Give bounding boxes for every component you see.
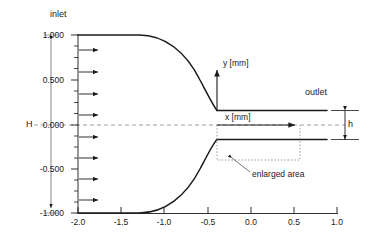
x-tick-label-4: -0.5 xyxy=(188,218,228,227)
y-tick-label-2: 0.500 xyxy=(24,76,64,85)
y-axis xyxy=(71,35,78,214)
enlarged-area-label: enlarged area xyxy=(252,170,304,179)
y-axis-title: y [mm] xyxy=(223,59,249,68)
upper-wall-curve xyxy=(78,35,217,111)
inlet-velocity-arrows xyxy=(79,50,98,200)
x-tick-label-1: -2.0 xyxy=(58,218,98,227)
figure-canvas: inlet outlet H h y [mm] x [mm] enlarged … xyxy=(0,0,368,241)
enlarged-area-box xyxy=(217,125,300,160)
x-tick-label-3: -1.0 xyxy=(144,218,184,227)
y-tick-label-3: 0.000 xyxy=(24,121,64,130)
inlet-label: inlet xyxy=(50,10,67,19)
x-tick-label-7: 1.0 xyxy=(317,218,357,227)
x-axis-title: x [mm] xyxy=(225,113,251,122)
y-tick-label-4: -0.500 xyxy=(24,165,64,174)
y-tick-label-5: -1.000 xyxy=(24,209,64,218)
y-tick-label-1: 1.000 xyxy=(24,31,64,40)
lower-wall-curve xyxy=(78,140,217,214)
x-tick-label-5: 0.0 xyxy=(231,218,271,227)
x-tick-label-6: 0.5 xyxy=(274,218,314,227)
outlet-label: outlet xyxy=(305,88,327,97)
enlarged-area-leader-line xyxy=(232,158,250,172)
dimension-h-label: h xyxy=(348,120,353,129)
x-tick-label-2: -1.5 xyxy=(101,218,141,227)
